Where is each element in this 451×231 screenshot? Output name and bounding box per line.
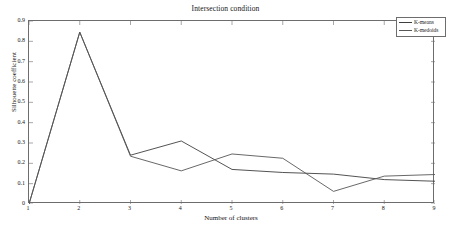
x-tick-label: 4 [179, 205, 182, 211]
legend-item: K-means [399, 19, 443, 27]
y-tick-label: 0.7 [18, 58, 26, 64]
y-tick-label: 0.3 [18, 139, 26, 145]
legend-line-swatch-series-1 [399, 30, 412, 32]
chart-container: Intersection condition 00.10.20.30.40.50… [0, 0, 451, 231]
x-axis-title: Number of clusters [28, 214, 434, 222]
y-tick-label: 0.6 [18, 78, 26, 84]
x-tick-label: 7 [331, 205, 334, 211]
series-lines-svg [29, 21, 435, 204]
plot-area [28, 20, 434, 203]
y-axis-title: Silhouette coefficient [10, 22, 18, 142]
chart-title: Intersection condition [0, 4, 451, 13]
y-tick-label: 0 [22, 200, 25, 206]
x-tick-label: 8 [382, 205, 385, 211]
y-tick-label: 0.1 [18, 180, 26, 186]
x-tick-label: 9 [433, 205, 436, 211]
y-tick-label: 0.9 [18, 17, 26, 23]
legend: K-means K-medoids [396, 17, 446, 37]
x-tick-label: 1 [27, 205, 30, 211]
x-tick-label: 2 [77, 205, 80, 211]
x-tick-label: 6 [280, 205, 283, 211]
y-tick-label: 0.5 [18, 98, 26, 104]
y-tick-label: 0.8 [18, 37, 26, 43]
legend-label-series-1: K-medoids [414, 28, 438, 34]
x-tick-label: 5 [230, 205, 233, 211]
legend-item: K-medoids [399, 27, 443, 35]
y-tick-label: 0.2 [18, 159, 26, 165]
legend-line-swatch-series-0 [399, 22, 412, 24]
y-tick-label: 0.4 [18, 119, 26, 125]
legend-label-series-0: K-means [414, 20, 434, 26]
x-tick-label: 3 [128, 205, 131, 211]
